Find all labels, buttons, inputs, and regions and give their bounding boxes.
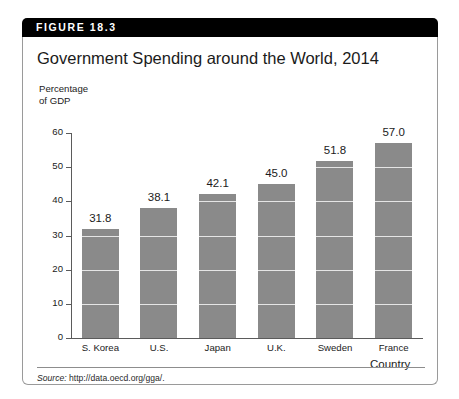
bar-group: 31.8S. Korea (71, 133, 130, 338)
y-axis-tick-label: 30 (52, 229, 63, 240)
figure-container: FIGURE 18.3 Government Spending around t… (22, 18, 438, 385)
y-axis-tick-mark (66, 338, 71, 339)
bar-value-label: 51.8 (316, 144, 353, 156)
chart-title: Government Spending around the World, 20… (37, 49, 379, 68)
y-axis-tick-label: 40 (52, 194, 63, 205)
footer-divider (37, 367, 425, 368)
x-axis-category-label: Sweden (306, 342, 365, 353)
y-axis-title-line-2: of GDP (39, 95, 88, 107)
bar-value-label: 42.1 (199, 177, 236, 189)
x-axis-category-label: France (364, 342, 423, 353)
bar[interactable]: 51.8 (316, 161, 353, 338)
bar[interactable]: 57.0 (375, 143, 412, 338)
bar[interactable]: 42.1 (199, 194, 236, 338)
bar-value-label: 31.8 (82, 212, 119, 224)
bar[interactable]: 31.8 (82, 229, 119, 338)
x-axis-category-label: U.K. (247, 342, 306, 353)
bar-value-label: 57.0 (375, 126, 412, 138)
figure-body: Government Spending around the World, 20… (22, 37, 438, 385)
plot-area: 0102030405060 31.8S. Korea38.1U.S.42.1Ja… (71, 133, 423, 338)
y-axis-tick-label: 50 (52, 160, 63, 171)
source-url: http://data.oecd.org/gga/. (69, 373, 165, 383)
bar[interactable]: 45.0 (258, 184, 295, 338)
y-axis-tick-label: 20 (52, 263, 63, 274)
bar-group: 57.0France (364, 133, 423, 338)
source-note: Source: http://data.oecd.org/gga/. (37, 373, 165, 383)
bar-group: 42.1Japan (188, 133, 247, 338)
y-axis-tick-label: 60 (52, 126, 63, 137)
bar-value-label: 38.1 (140, 191, 177, 203)
figure-number-label: FIGURE 18.3 (36, 21, 117, 33)
y-axis-title: Percentage of GDP (39, 83, 88, 106)
x-axis-category-label: Japan (188, 342, 247, 353)
x-axis-category-label: S. Korea (71, 342, 130, 353)
bar-value-label: 45.0 (258, 167, 295, 179)
bar[interactable]: 38.1 (140, 208, 177, 338)
y-axis-title-line-1: Percentage (39, 83, 88, 95)
y-axis-tick-label: 0 (58, 331, 63, 342)
x-axis-category-label: U.S. (130, 342, 189, 353)
x-axis-line (71, 338, 423, 339)
source-label: Source: (37, 373, 67, 383)
figure-banner: FIGURE 18.3 (22, 18, 438, 37)
x-axis-title: Country (370, 358, 410, 370)
bar-group: 45.0U.K. (247, 133, 306, 338)
y-axis-tick-label: 10 (52, 297, 63, 308)
bar-group: 51.8Sweden (306, 133, 365, 338)
bar-group: 38.1U.S. (130, 133, 189, 338)
